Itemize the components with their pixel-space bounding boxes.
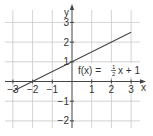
- formula-label: f(x) = 1 2 x + 1: [76, 63, 140, 77]
- y-tick-label: 3: [63, 17, 69, 28]
- y-tick-label: 1: [63, 56, 69, 67]
- y-tick-label: 2: [63, 37, 69, 48]
- y-tick-label: −1: [58, 96, 70, 107]
- x-tick-label: −3: [7, 84, 19, 95]
- formula-lhs: f(x) =: [78, 65, 101, 76]
- y-axis-label: y: [64, 7, 69, 18]
- y-axis-arrow-icon: [70, 4, 74, 10]
- x-tick-label: −2: [27, 84, 39, 95]
- function-graph: −3−2−1123−2−1123 f(x) = 1 2 x + 1 y x: [0, 0, 153, 136]
- x-tick-label: −1: [47, 84, 59, 95]
- y-tick-label: −2: [58, 115, 70, 126]
- x-tick-label: 1: [89, 84, 95, 95]
- formula-rhs: x + 1: [118, 65, 140, 76]
- x-axis-label: x: [141, 82, 146, 93]
- x-tick-label: 2: [109, 84, 115, 95]
- x-tick-label: 3: [128, 84, 134, 95]
